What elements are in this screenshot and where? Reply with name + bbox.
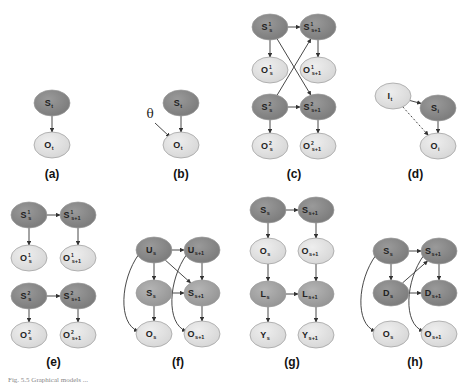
node-g-On: Os+1 [298, 238, 334, 264]
node-b-S: St [163, 90, 199, 116]
panel-label-a: (a) [45, 167, 60, 181]
graphical-models-diagram: StOtStOtS1sS1s+1O1sO1s+1S2sS2s+1O2sO2s+1… [0, 0, 470, 386]
node-b-O: Ot [163, 132, 199, 158]
panel-label-b: (b) [173, 167, 188, 181]
edge-theta [155, 123, 170, 137]
node-d-S: Si [420, 95, 456, 121]
svg-text:O2s: O2s [20, 329, 32, 341]
node-h-Sn: Ss+1 [421, 238, 457, 264]
node-g-S: Ss [250, 197, 286, 223]
svg-text:O1s: O1s [261, 64, 273, 76]
node-a-S: St [34, 90, 70, 116]
node-f-Un: Us+1 [184, 237, 220, 263]
node-a-O: Ot [34, 132, 70, 158]
node-g-Sn: Ss+1 [298, 197, 334, 223]
node-c-O1: O1s [252, 57, 288, 83]
node-e-S2n: S2s+1 [60, 283, 96, 309]
node-e-S1: S1s [11, 202, 47, 228]
node-e-O1n: O1s+1 [60, 245, 96, 271]
node-h-D: Ds [373, 280, 409, 306]
node-c-S2: S2s [252, 94, 288, 120]
panel-label-g: (g) [284, 355, 299, 369]
node-e-O2: O2s [11, 322, 47, 348]
panel-label-h: (h) [407, 355, 422, 369]
node-g-L: Ls [250, 281, 286, 307]
node-c-O2n: O2s+1 [300, 133, 336, 159]
node-g-Yn: Ys+1 [298, 322, 334, 348]
node-c-S1: S1s [252, 14, 288, 40]
svg-text:O2s: O2s [261, 140, 273, 152]
node-f-S: Ss [136, 280, 172, 306]
panel-label-d: (d) [408, 167, 423, 181]
node-e-O1: O1s [11, 245, 47, 271]
node-e-S1n: S1s+1 [60, 202, 96, 228]
node-g-Ln: Ls+1 [298, 281, 334, 307]
node-d-O: Oi [420, 133, 456, 159]
node-c-O2: O2s [252, 133, 288, 159]
node-e-S2: S2s [11, 283, 47, 309]
node-h-Dn: Ds+1 [421, 280, 457, 306]
node-c-S1n: S1s+1 [300, 14, 336, 40]
node-f-On: Os+1 [184, 321, 220, 347]
node-d-I: It [375, 83, 411, 109]
panel-label-e: (e) [46, 355, 61, 369]
svg-text:S1s: S1s [262, 21, 273, 33]
panel-label-f: (f) [172, 355, 184, 369]
edge [410, 101, 421, 104]
node-h-S: Ss [373, 238, 409, 264]
node-f-U: Us [136, 237, 172, 263]
svg-text:S2s: S2s [21, 290, 32, 302]
figure-caption: Fig. 5.5 Graphical models ... [8, 376, 88, 384]
node-g-Y: Ys [250, 322, 286, 348]
panel-label-c: (c) [287, 167, 302, 181]
node-e-O2n: O2s+1 [60, 322, 96, 348]
node-f-Sn: Ss+1 [184, 280, 220, 306]
node-c-S2n: S2s+1 [300, 94, 336, 120]
node-f-O: Os [136, 321, 172, 347]
node-h-O: Os [373, 321, 409, 347]
theta-parameter: θ [146, 107, 153, 121]
svg-text:O1s: O1s [20, 252, 32, 264]
node-h-On: Os+1 [421, 321, 457, 347]
svg-text:S1s: S1s [21, 209, 32, 221]
svg-text:S2s: S2s [262, 101, 273, 113]
node-g-O: Os [250, 238, 286, 264]
node-c-O1n: O1s+1 [300, 57, 336, 83]
